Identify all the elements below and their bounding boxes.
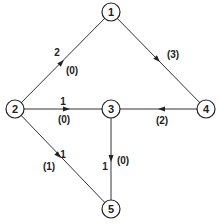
node-2: 2 (6, 100, 24, 118)
edge-2-3-flow: (0) (58, 114, 70, 125)
edge-4-3-flow: (2) (156, 115, 168, 126)
node-5: 5 (102, 200, 120, 218)
edge-2-1-capacity: 2 (54, 47, 60, 58)
edge-2-3-capacity: 1 (60, 96, 66, 107)
node-1-label: 1 (108, 6, 114, 18)
arrow-icon-4-3 (158, 107, 165, 112)
node-5-label: 5 (108, 203, 114, 215)
arrow-icon-2-3 (63, 107, 70, 112)
node-4: 4 (197, 100, 215, 118)
network-flow-diagram: 2 (0) (3) 1 (0) (2) 1 (1) 1 (0) 1 2 3 4 (0, 0, 219, 224)
node-3-label: 3 (108, 103, 114, 115)
node-4-label: 4 (203, 103, 210, 115)
arrow-icon-3-5 (109, 155, 114, 162)
edge-1-4-flow: (3) (167, 49, 179, 60)
node-1: 1 (102, 3, 120, 21)
edge-3-5-flow: (0) (117, 155, 129, 166)
node-3: 3 (102, 100, 120, 118)
edge-2-5-capacity: 1 (60, 149, 66, 160)
edge-2-1-flow: (0) (66, 65, 78, 76)
node-2-label: 2 (12, 103, 18, 115)
edge-2-5-flow: (1) (43, 161, 55, 172)
edge-3-5-capacity: 1 (102, 161, 108, 172)
